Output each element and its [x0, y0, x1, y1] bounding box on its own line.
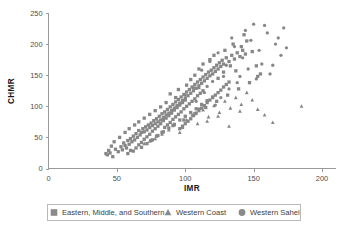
- data-point: [244, 29, 247, 32]
- data-point: [271, 120, 275, 124]
- data-point: [240, 45, 243, 48]
- data-point: [174, 96, 177, 99]
- x-tick-label: 0: [46, 174, 50, 183]
- data-point: [255, 64, 258, 67]
- data-point: [216, 51, 219, 54]
- data-point: [230, 54, 233, 57]
- data-point: [263, 24, 266, 27]
- data-point: [128, 127, 131, 130]
- data-point: [236, 81, 239, 84]
- data-point: [121, 148, 124, 151]
- data-point: [252, 23, 255, 26]
- data-point: [211, 95, 214, 98]
- data-point: [228, 106, 232, 110]
- data-point: [125, 146, 128, 149]
- data-point: [201, 62, 204, 65]
- data-point: [216, 77, 219, 80]
- data-point: [137, 120, 140, 123]
- data-point: [212, 54, 215, 57]
- data-point: [285, 46, 288, 49]
- data-point: [117, 150, 120, 153]
- data-point: [179, 110, 182, 113]
- data-point: [241, 49, 244, 52]
- data-point: [277, 36, 280, 39]
- data-point: [300, 104, 304, 108]
- x-axis-title: IMR: [184, 184, 200, 193]
- data-markers-layer: [104, 23, 303, 159]
- data-point: [140, 141, 143, 144]
- data-point: [205, 85, 208, 88]
- data-point: [197, 107, 200, 110]
- data-point: [239, 102, 243, 106]
- data-point: [223, 49, 226, 52]
- data-point: [250, 98, 254, 102]
- data-point: [119, 145, 122, 148]
- data-point: [274, 42, 277, 45]
- data-point: [154, 109, 157, 112]
- data-point: [129, 149, 132, 152]
- data-point: [195, 100, 198, 103]
- y-axis-ticks: 050100150200250: [30, 9, 48, 174]
- data-point: [156, 134, 159, 137]
- data-point: [208, 60, 211, 63]
- data-point: [110, 144, 113, 147]
- data-point: [227, 87, 230, 90]
- data-point: [249, 39, 252, 42]
- data-point: [227, 80, 230, 83]
- legend: Eastern, Middle, and SouthernWestern Coa…: [48, 205, 301, 221]
- y-tick-label: 100: [30, 102, 42, 111]
- data-point: [185, 84, 188, 87]
- y-tick-label: 0: [38, 164, 42, 173]
- data-point: [219, 96, 222, 99]
- data-point: [236, 51, 239, 54]
- data-point: [107, 149, 110, 152]
- data-point: [214, 103, 217, 106]
- data-point: [229, 64, 232, 67]
- data-point: [184, 93, 187, 96]
- data-point: [170, 111, 173, 114]
- data-point: [215, 100, 218, 103]
- data-point: [225, 56, 228, 59]
- data-point: [189, 117, 192, 120]
- data-point: [216, 114, 220, 118]
- data-point: [118, 136, 121, 139]
- data-point: [134, 132, 137, 135]
- data-point: [222, 70, 225, 73]
- data-point: [133, 123, 136, 126]
- legend-label: Eastern, Middle, and Southern: [62, 208, 165, 217]
- data-point: [227, 124, 231, 128]
- data-point: [148, 133, 151, 136]
- y-axis-title: CHMR: [7, 78, 16, 104]
- data-point: [251, 50, 254, 53]
- data-point: [200, 103, 203, 106]
- data-point: [111, 155, 114, 158]
- data-point: [192, 86, 195, 89]
- data-point: [159, 122, 162, 125]
- data-point: [219, 88, 222, 91]
- data-point: [211, 80, 214, 83]
- data-point: [271, 64, 274, 67]
- data-point: [203, 91, 206, 94]
- legend-marker-circle: [239, 209, 246, 216]
- data-point: [282, 26, 285, 29]
- data-point: [204, 106, 207, 109]
- y-tick-label: 250: [30, 9, 42, 18]
- data-point: [205, 119, 209, 123]
- x-axis-ticks: 050100150200: [46, 169, 328, 183]
- y-tick-label: 50: [34, 133, 42, 142]
- data-point: [234, 69, 237, 72]
- x-tick-label: 200: [316, 174, 328, 183]
- data-point: [259, 72, 262, 75]
- data-point: [123, 131, 126, 134]
- data-point: [169, 121, 172, 124]
- data-point: [143, 116, 146, 119]
- x-tick-label: 50: [113, 174, 121, 183]
- data-point: [225, 64, 228, 67]
- data-point: [230, 36, 233, 39]
- data-point: [223, 99, 227, 103]
- data-point: [233, 45, 236, 48]
- data-point: [268, 72, 271, 75]
- data-point: [245, 39, 248, 42]
- data-point: [241, 56, 244, 59]
- data-point: [256, 107, 260, 111]
